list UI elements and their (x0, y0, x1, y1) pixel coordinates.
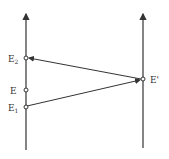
event-e2 (24, 56, 28, 60)
label-e1: E1 (8, 103, 18, 114)
spacetime-diagram: E2 E E1 E' (0, 0, 169, 159)
signal-back (29, 58, 141, 79)
event-e1 (24, 105, 28, 109)
signal-out (27, 80, 140, 106)
label-eprime: E' (150, 75, 159, 85)
event-eprime (141, 77, 145, 81)
event-e (24, 88, 28, 92)
label-e2: E2 (8, 54, 19, 65)
label-e: E (10, 86, 17, 96)
